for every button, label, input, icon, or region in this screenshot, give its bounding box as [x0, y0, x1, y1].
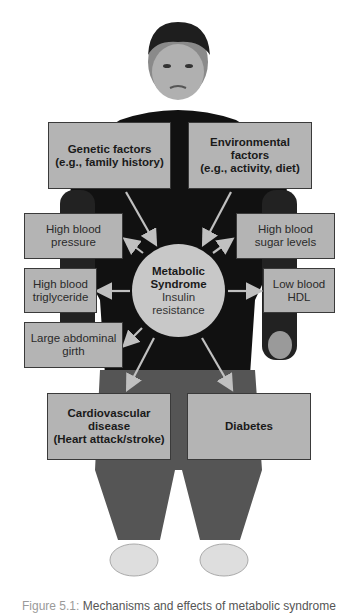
- genetic-line-2: (e.g., family history): [55, 156, 164, 169]
- environmental-line-1: Environmental: [200, 136, 299, 149]
- abdominal-girth-box: Large abdominal girth: [24, 322, 123, 368]
- diabetes-line-1: Diabetes: [225, 420, 273, 433]
- girth-line-2: girth: [31, 345, 117, 358]
- hdl-line-1: Low blood: [273, 278, 325, 291]
- environmental-factors-box: Environmental factors (e.g., activity, d…: [188, 122, 312, 189]
- hbp-line-1: High blood: [46, 223, 101, 236]
- center-title-1: Metabolic: [152, 265, 205, 278]
- trig-line-1: High blood: [33, 278, 89, 291]
- low-hdl-box: Low blood HDL: [263, 268, 335, 313]
- center-title-2: Syndrome: [150, 278, 206, 291]
- cvd-line-3: (Heart attack/stroke): [53, 433, 164, 446]
- high-triglyceride-box: High blood triglyceride: [24, 268, 97, 313]
- cvd-line-1: Cardiovascular: [53, 407, 164, 420]
- cvd-line-2: disease: [53, 420, 164, 433]
- environmental-line-2: factors: [200, 149, 299, 162]
- girth-line-1: Large abdominal: [31, 332, 117, 345]
- figure-caption: Figure 5.1: Mechanisms and effects of me…: [22, 599, 336, 613]
- caption-text: Mechanisms and effects of metabolic synd…: [83, 599, 336, 613]
- environmental-line-3: (e.g., activity, diet): [200, 162, 299, 175]
- cardiovascular-disease-box: Cardiovascular disease (Heart attack/str…: [47, 393, 171, 460]
- hdl-line-2: HDL: [273, 291, 325, 304]
- trig-line-2: triglyceride: [33, 291, 89, 304]
- caption-label: Figure 5.1:: [22, 599, 79, 613]
- metabolic-syndrome-circle: Metabolic Syndrome Insulin resistance: [132, 244, 225, 337]
- diabetes-box: Diabetes: [187, 393, 311, 460]
- center-sub-2: resistance: [152, 304, 204, 317]
- hbs-line-2: sugar levels: [255, 236, 316, 249]
- center-sub-1: Insulin: [162, 291, 195, 304]
- high-blood-sugar-box: High blood sugar levels: [236, 213, 335, 259]
- hbp-line-2: pressure: [46, 236, 101, 249]
- genetic-line-1: Genetic factors: [55, 143, 164, 156]
- high-blood-pressure-box: High blood pressure: [24, 213, 123, 259]
- genetic-factors-box: Genetic factors (e.g., family history): [48, 122, 171, 189]
- hbs-line-1: High blood: [255, 223, 316, 236]
